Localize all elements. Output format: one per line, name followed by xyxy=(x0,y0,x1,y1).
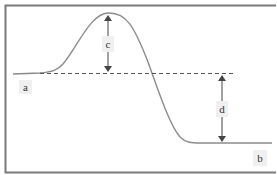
border-frame xyxy=(6,6,277,173)
diagram-frame: c d a b xyxy=(0,0,276,175)
label-b: b xyxy=(257,152,263,164)
label-d: d xyxy=(219,103,225,115)
label-a: a xyxy=(23,81,28,93)
reaction-curve xyxy=(13,13,272,143)
energy-diagram: c d a b xyxy=(0,0,276,175)
label-c: c xyxy=(106,38,111,50)
